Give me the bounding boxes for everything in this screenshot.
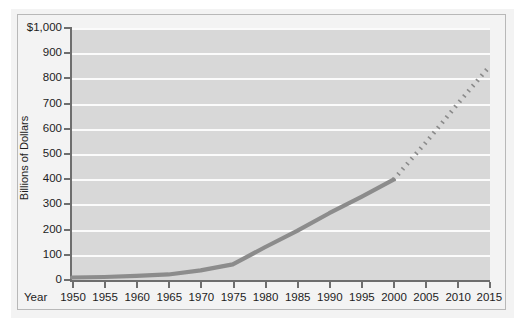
gridline (72, 78, 490, 80)
gridline (72, 154, 490, 156)
y-tick-label: 0 (0, 274, 62, 286)
gridline (72, 255, 490, 257)
y-tick-label: 800 (0, 72, 62, 84)
x-axis-tick (489, 282, 491, 288)
x-tick-label: 1975 (221, 292, 247, 304)
y-axis-tick (64, 279, 71, 281)
x-axis-tick (361, 282, 363, 288)
x-tick-label: 2005 (413, 292, 439, 304)
x-tick-label: 1955 (92, 292, 118, 304)
y-axis-tick (64, 203, 71, 205)
x-tick-label: 2000 (381, 292, 407, 304)
y-tick-label: $1,000 (0, 22, 62, 34)
y-axis-tick (64, 103, 71, 105)
x-tick-label: 1965 (157, 292, 183, 304)
y-axis-tick-labels: $1,000 900 800 700 600 500 400 300 200 1… (0, 0, 62, 327)
x-tick-label: 1980 (253, 292, 279, 304)
y-axis-tick (64, 153, 71, 155)
gridline (72, 28, 490, 30)
x-axis-tick (168, 282, 170, 288)
gridline (72, 53, 490, 55)
y-tick-label: 700 (0, 98, 62, 110)
x-tick-label: 1995 (349, 292, 375, 304)
x-tick-label: 2010 (445, 292, 471, 304)
x-tick-label: 1950 (60, 292, 86, 304)
x-axis-tick (329, 282, 331, 288)
chart-figure: $1,000 900 800 700 600 500 400 300 200 1… (0, 0, 525, 327)
gridline (72, 230, 490, 232)
y-tick-label: 300 (0, 198, 62, 210)
y-axis-tick (64, 254, 71, 256)
y-axis-tick (64, 229, 71, 231)
x-tick-label: 1990 (317, 292, 343, 304)
y-axis-tick (64, 128, 71, 130)
x-axis-title: Year (24, 292, 47, 304)
x-axis-tick (136, 282, 138, 288)
x-axis-tick (72, 282, 74, 288)
y-tick-label: 400 (0, 173, 62, 185)
gridline (72, 204, 490, 206)
y-tick-label: 200 (0, 224, 62, 236)
plot-area (72, 28, 490, 280)
y-axis-title: Billions of Dollars (18, 88, 30, 228)
y-tick-label: 900 (0, 47, 62, 59)
x-axis-tick (200, 282, 202, 288)
y-axis-tick (64, 27, 71, 29)
x-axis-tick (104, 282, 106, 288)
x-tick-label: 1985 (285, 292, 311, 304)
y-tick-label: 100 (0, 249, 62, 261)
y-tick-label: 500 (0, 148, 62, 160)
y-axis-tick (64, 77, 71, 79)
x-tick-label: 1960 (124, 292, 150, 304)
gridline (72, 179, 490, 181)
x-axis-tick (457, 282, 459, 288)
y-axis-tick (64, 52, 71, 54)
gridline (72, 104, 490, 106)
x-axis-tick (425, 282, 427, 288)
x-axis-tick (393, 282, 395, 288)
gridline (72, 129, 490, 131)
y-tick-label: 600 (0, 123, 62, 135)
y-axis-tick (64, 178, 71, 180)
x-axis-tick (233, 282, 235, 288)
x-axis-tick (265, 282, 267, 288)
x-tick-label: 2015 (477, 292, 503, 304)
x-tick-label: 1970 (189, 292, 215, 304)
x-axis-tick (297, 282, 299, 288)
